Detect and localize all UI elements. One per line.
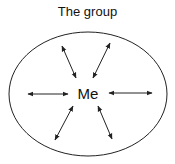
double-arrow-upper-left [62,46,76,78]
me-label: Me [78,85,99,102]
double-arrow-lower-right [98,106,112,139]
double-arrow-upper-right [93,43,110,78]
double-arrow-lower-left [55,106,73,140]
group-diagram: Me [0,0,175,164]
